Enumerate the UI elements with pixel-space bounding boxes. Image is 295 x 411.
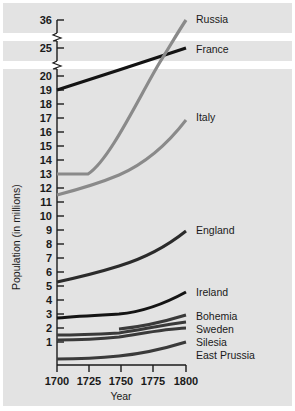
- y-tick-label-11: 11: [40, 196, 52, 208]
- y-tick-label-19: 19: [40, 84, 52, 96]
- y-tick-label-5: 5: [46, 280, 52, 292]
- y-tick-label-12: 12: [40, 182, 52, 194]
- y-tick-label-8: 8: [46, 238, 52, 250]
- y-tick-label-9: 9: [46, 224, 52, 236]
- y-axis-title: Population (in millions): [10, 184, 22, 290]
- x-axis-title: Year: [110, 390, 132, 402]
- y-tick-label-10: 10: [40, 210, 52, 222]
- series-label-silesia: Silesia: [196, 336, 227, 348]
- y-tick-label-4: 4: [46, 294, 53, 306]
- y-tick-label-17: 17: [40, 112, 52, 124]
- series-label-ireland: Ireland: [196, 286, 228, 298]
- y-tick-label-25: 25: [40, 42, 52, 54]
- x-tick-label-1800: 1800: [174, 375, 198, 387]
- x-tick-label-1700: 1700: [45, 375, 69, 387]
- chart-screenshot: 36 25 20 19 18 17 16 15 14 13 12 11 10 9…: [0, 0, 295, 411]
- y-tick-label-13: 13: [40, 168, 52, 180]
- y-tick-label-14: 14: [40, 154, 53, 166]
- series-label-russia: Russia: [196, 13, 228, 25]
- series-label-italy: Italy: [196, 111, 216, 123]
- series-line-russia: [57, 20, 186, 174]
- chart-svg: 36 25 20 19 18 17 16 15 14 13 12 11 10 9…: [0, 0, 295, 411]
- y-tick-label-36: 36: [40, 14, 52, 26]
- chart-canvas: 36 25 20 19 18 17 16 15 14 13 12 11 10 9…: [0, 0, 295, 411]
- x-tick-label-1750: 1750: [109, 375, 133, 387]
- y-tick-label-15: 15: [40, 140, 52, 152]
- y-tick-label-3: 3: [46, 308, 52, 320]
- y-tick-label-1: 1: [46, 336, 52, 348]
- y-tick-label-2: 2: [46, 322, 52, 334]
- series-line-ireland: [57, 292, 186, 318]
- series-label-sweden: Sweden: [196, 323, 234, 335]
- series-label-england: England: [196, 224, 235, 236]
- y-tick-label-6: 6: [46, 266, 52, 278]
- y-tick-label-18: 18: [40, 98, 52, 110]
- axis-break-band-upper: [3, 33, 292, 41]
- x-axis: 1700 1725 1750 1775 1800 Year: [45, 365, 198, 402]
- y-tick-label-20: 20: [40, 70, 52, 82]
- y-tick-label-16: 16: [40, 126, 52, 138]
- x-tick-label-1775: 1775: [141, 375, 165, 387]
- series-label-bohemia: Bohemia: [196, 310, 238, 322]
- series-line-east-prussia: [57, 342, 186, 359]
- series-label-east-prussia: East Prussia: [196, 349, 255, 361]
- series-label-france: France: [196, 43, 229, 55]
- x-tick-label-1725: 1725: [77, 375, 101, 387]
- y-tick-label-7: 7: [46, 252, 52, 264]
- series-line-england: [57, 231, 186, 282]
